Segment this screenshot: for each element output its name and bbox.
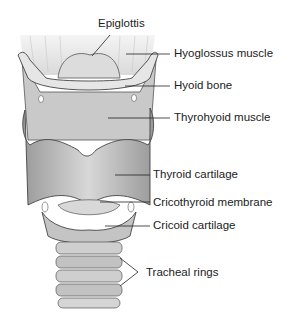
cricoid-cartilage: [42, 212, 136, 244]
label-hyoglossus-muscle: Hyoglossus muscle: [174, 47, 273, 60]
larynx-diagram: Epiglottis Hyoglossus muscle Hyoid bone …: [0, 0, 292, 315]
tracheal-rings: [56, 242, 122, 308]
label-cricoid-cartilage: Cricoid cartilage: [153, 219, 235, 232]
label-hyoid-bone: Hyoid bone: [174, 79, 232, 92]
label-epiglottis: Epiglottis: [98, 17, 145, 30]
label-thyrohyoid-muscle: Thyrohyoid muscle: [174, 111, 271, 124]
label-tracheal-rings: Tracheal rings: [146, 266, 218, 279]
label-cricothyroid-membrane: Cricothyroid membrane: [153, 196, 273, 209]
label-thyroid-cartilage: Thyroid cartilage: [153, 168, 238, 181]
